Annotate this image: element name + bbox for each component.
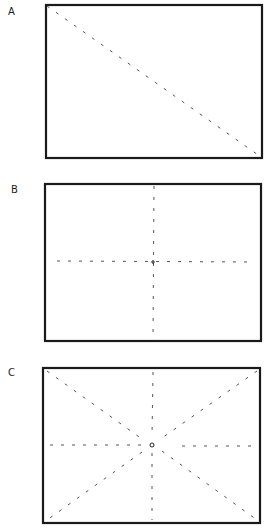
center-plus-icon (151, 260, 155, 264)
panel-c (43, 368, 260, 523)
guide-line (162, 451, 257, 520)
guide-line (47, 371, 142, 439)
guide-line (47, 452, 142, 520)
composition-diagram (0, 0, 266, 532)
guide-line (57, 261, 254, 262)
guide-line (47, 6, 261, 157)
guide-line (152, 372, 153, 437)
guide-line (162, 371, 257, 438)
center-circle-icon (150, 443, 154, 447)
panel-a (46, 5, 262, 158)
panel-b (45, 184, 261, 341)
frame-rect (46, 5, 262, 158)
